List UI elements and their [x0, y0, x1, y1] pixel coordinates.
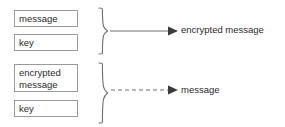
encryption-arrow [110, 27, 178, 36]
decryption-arrow [111, 86, 178, 95]
brace-decryption-icon [95, 60, 115, 126]
arrowhead-solid-icon [168, 27, 178, 36]
key-box-bottom: key [14, 100, 78, 117]
encryption-decryption-diagram: message key encrypted message key encryp… [0, 0, 285, 127]
key-box-top: key [14, 34, 78, 51]
arrowhead-dashed-icon [168, 86, 178, 95]
encrypted-message-box: encrypted message [14, 64, 78, 92]
message-box: message [14, 10, 78, 27]
message-output-label: message [181, 84, 220, 96]
brace-encryption-icon [95, 6, 115, 56]
encrypted-message-output-label: encrypted message [181, 24, 264, 36]
